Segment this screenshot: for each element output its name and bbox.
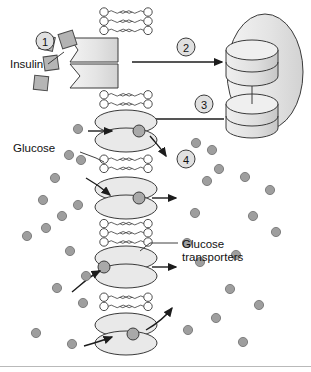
glucose-molecule <box>271 227 280 236</box>
step-3-number: 3 <box>201 99 207 111</box>
phospholipid-head <box>144 100 152 108</box>
glucose-molecule <box>190 208 199 217</box>
glucose-transporter-4 <box>95 313 157 355</box>
phospholipid-head <box>144 302 152 310</box>
glucose-molecules-extracellular <box>22 124 90 348</box>
glucose-molecule <box>22 231 31 240</box>
phospholipid-head <box>100 293 108 301</box>
insulin-square <box>33 75 48 90</box>
diagram-svg: 1 2 3 <box>0 0 311 372</box>
glucose-molecule <box>225 284 234 293</box>
phospholipid-head <box>100 155 108 163</box>
diagram-canvas: 1 2 3 <box>0 0 311 372</box>
phospholipid-head <box>144 8 152 16</box>
glucose-molecule <box>52 283 61 292</box>
glucose-molecule <box>73 200 82 209</box>
phospholipid-head <box>144 229 152 237</box>
phospholipid-head <box>100 91 108 99</box>
glucose-molecule <box>248 211 257 220</box>
insulin-square <box>58 30 77 49</box>
phospholipid-head <box>100 229 108 237</box>
step-1-number: 1 <box>42 36 48 48</box>
glucose-transporter-2 <box>95 177 157 219</box>
glucose-molecule <box>240 172 249 181</box>
glucose-transporters-label: Glucose transporters <box>182 238 243 264</box>
glucose-molecule <box>38 195 47 204</box>
phospholipid-head <box>144 26 152 34</box>
phospholipid-head <box>100 8 108 16</box>
glucose-molecule <box>78 298 87 307</box>
glucose-molecule <box>64 150 73 159</box>
phospholipid-head <box>144 219 152 227</box>
glucose-molecule <box>57 211 66 220</box>
phospholipid-head <box>144 17 152 25</box>
glucose-molecule <box>211 313 220 322</box>
glucose-molecule <box>265 185 274 194</box>
phospholipid-head <box>100 164 108 172</box>
phospholipid-head <box>144 91 152 99</box>
step-4-marker: 4 <box>177 150 195 168</box>
glucose-label: Glucose <box>13 142 55 155</box>
glucose-molecule <box>191 138 200 147</box>
glucose-transporter-3 <box>95 246 157 288</box>
glucose-molecule <box>238 337 247 346</box>
glucose-molecule <box>41 223 50 232</box>
glucose-molecule <box>31 328 40 337</box>
step-2-group: 2 <box>132 38 222 62</box>
step-2-number: 2 <box>183 42 189 54</box>
phospholipid-head <box>100 219 108 227</box>
transporters-label-line1: Glucose <box>182 238 224 250</box>
glucose-molecule <box>67 339 76 348</box>
glucose-molecule <box>202 176 211 185</box>
glucose-molecule <box>50 173 59 182</box>
glucose-molecule <box>254 300 263 309</box>
insulin-receptor <box>70 38 118 88</box>
glucose-molecule <box>207 145 216 154</box>
phospholipid-head <box>144 164 152 172</box>
step-4-number: 4 <box>183 154 189 166</box>
vesicle-transporter-upper <box>226 40 278 86</box>
step-1-marker: 1 <box>36 32 54 50</box>
transporters-label-line2: transporters <box>182 251 243 263</box>
glucose-molecule <box>65 246 74 255</box>
phospholipid-head <box>100 26 108 34</box>
phospholipid-head <box>144 155 152 163</box>
glucose-molecule <box>73 124 82 133</box>
phospholipid-head <box>144 293 152 301</box>
insulin-label: Insulin <box>10 58 43 71</box>
glucose-molecule <box>214 164 223 173</box>
phospholipid-head <box>100 238 108 246</box>
glucose-molecule <box>76 155 85 164</box>
phospholipid-head <box>100 17 108 25</box>
glucose-molecule <box>183 325 192 334</box>
phospholipid-head <box>100 302 108 310</box>
phospholipid-head <box>100 100 108 108</box>
bottom-border <box>0 366 311 367</box>
glucose-molecule <box>81 271 90 280</box>
